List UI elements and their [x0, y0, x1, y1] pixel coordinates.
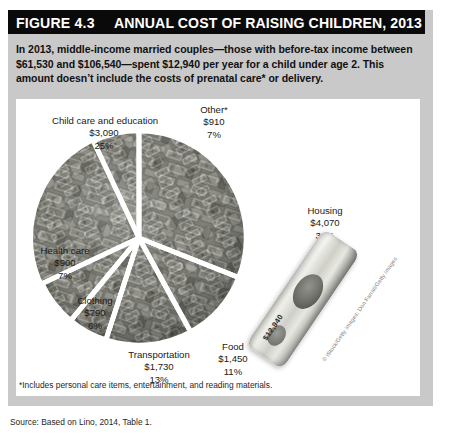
pie-label-health-care-name: Health care: [24, 245, 106, 257]
figure-title: ANNUAL COST OF RAISING CHILDREN, 2013: [114, 14, 422, 31]
pie-label-housing-name: Housing: [288, 205, 362, 217]
pie-label-transportation-name: Transportation: [110, 349, 208, 361]
pie-label-child-care-name: Child care and education: [52, 115, 156, 127]
pie-label-food-amount: $1,450: [202, 353, 264, 365]
bill-roll-graphic: [246, 229, 361, 370]
figure-intro-text: In 2013, middle-income married couples—t…: [16, 42, 424, 86]
figure-footnote: *Includes personal care items, entertain…: [19, 380, 272, 390]
rolled-dollar-bill-photo: $12,940 © iStock/Getty Images; Don Farra…: [259, 227, 391, 377]
figure-source: Source: Based on Lino, 2014, Table 1.: [10, 417, 152, 427]
pie-label-transportation-amount: $1,730: [110, 361, 208, 373]
pie-label-other-amount: $910: [179, 116, 249, 128]
pie-label-child-care-amount: $3,090: [52, 127, 156, 139]
figure-content-panel: Child care and education $3,090 25% Othe…: [16, 99, 420, 396]
pie-label-health-care: Health care $900 7%: [24, 245, 106, 282]
pie-label-clothing-amount: $790: [60, 307, 130, 319]
pie-label-health-care-percent: 7%: [24, 270, 106, 282]
pie-label-clothing: Clothing $790 6%: [60, 295, 130, 332]
figure-container: FIGURE 4.3 ANNUAL COST OF RAISING CHILDR…: [0, 0, 449, 437]
pie-label-health-care-amount: $900: [24, 257, 106, 269]
pie-label-other-name: Other*: [179, 104, 249, 116]
pie-label-child-care: Child care and education $3,090 25%: [52, 115, 156, 152]
figure-title-bar: FIGURE 4.3 ANNUAL COST OF RAISING CHILDR…: [8, 10, 425, 34]
pie-label-clothing-name: Clothing: [60, 295, 130, 307]
pie-label-other-percent: 7%: [179, 129, 249, 141]
pie-label-food-percent: 11%: [202, 366, 264, 378]
figure-number-label: FIGURE 4.3: [16, 14, 95, 31]
pie-label-other: Other* $910 7%: [179, 104, 249, 141]
pie-label-child-care-percent: 25%: [52, 140, 156, 152]
pie-label-clothing-percent: 6%: [60, 320, 130, 332]
